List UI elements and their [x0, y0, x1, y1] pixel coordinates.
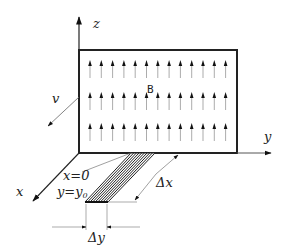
field-arrow-head-icon [133, 123, 137, 129]
field-arrow-head-icon [156, 92, 160, 98]
field-arrow-head-icon [213, 123, 217, 129]
field-label: B [147, 83, 154, 96]
field-arrow-head-icon [190, 92, 194, 98]
field-arrow-head-icon [156, 123, 160, 129]
field-arrow-head-icon [111, 60, 115, 66]
x-axis-label: x [16, 184, 24, 199]
delta-y-label: Δy [87, 230, 105, 245]
field-arrow-head-icon [167, 92, 171, 98]
strip-outline [85, 153, 155, 202]
velocity-label: v [52, 91, 60, 106]
field-arrow-head-icon [213, 92, 217, 98]
field-arrow-head-icon [122, 123, 126, 129]
field-arrows [88, 60, 227, 141]
field-diagram: z B y x v x=0 y=y0 Δx Δy [0, 0, 286, 251]
y-condition-label: y=y0 [56, 184, 88, 200]
field-arrow-head-icon [201, 123, 205, 129]
field-arrow-head-icon [122, 60, 126, 66]
field-arrow-head-icon [145, 60, 149, 66]
field-arrow-head-icon [145, 123, 149, 129]
field-arrow-head-icon [190, 123, 194, 129]
field-arrow-head-icon [179, 60, 183, 66]
field-arrow-head-icon [100, 92, 104, 98]
field-arrow-head-icon [179, 123, 183, 129]
delta-x-label: Δx [155, 175, 173, 190]
field-arrow-head-icon [224, 123, 228, 129]
field-arrow-head-icon [100, 60, 104, 66]
x-condition-label: x=0 [63, 168, 90, 183]
field-arrow-head-icon [156, 60, 160, 66]
strip-element [85, 153, 155, 202]
field-arrow-head-icon [88, 123, 92, 129]
field-arrow-head-icon [122, 92, 126, 98]
delta-x-dimension [156, 155, 178, 174]
field-arrow-head-icon [224, 92, 228, 98]
field-arrow-head-icon [133, 92, 137, 98]
z-axis-label: z [92, 16, 100, 31]
field-arrow-head-icon [224, 60, 228, 66]
y-axis-label: y [263, 129, 272, 144]
field-arrow-head-icon [100, 123, 104, 129]
field-arrow-head-icon [167, 60, 171, 66]
delta-x-dimension-lower [135, 174, 156, 200]
field-arrow-head-icon [88, 60, 92, 66]
strip-hatch-line [95, 153, 141, 202]
field-arrow-head-icon [167, 123, 171, 129]
field-arrow-head-icon [133, 60, 137, 66]
field-arrow-head-icon [88, 92, 92, 98]
field-arrow-head-icon [190, 60, 194, 66]
field-arrow-head-icon [213, 60, 217, 66]
field-arrow-head-icon [201, 92, 205, 98]
field-arrow-head-icon [111, 123, 115, 129]
field-arrow-head-icon [201, 60, 205, 66]
strip-hatch-line [98, 153, 145, 202]
field-arrow-head-icon [111, 92, 115, 98]
field-arrow-head-icon [179, 92, 183, 98]
